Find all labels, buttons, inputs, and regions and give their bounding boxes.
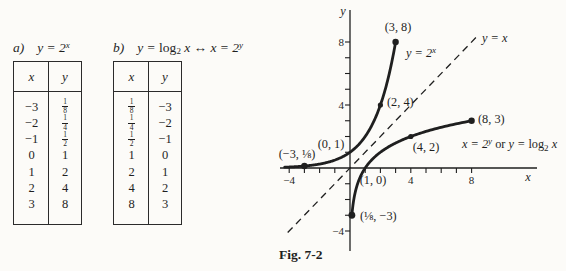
table-a: a) y = 2x xy −318−214−11201122438 <box>13 40 82 225</box>
table-cell: −3 <box>14 101 49 114</box>
point-label: (0, 1) <box>318 137 345 151</box>
curve-label: y = 2x <box>404 45 436 60</box>
fraction: 12 <box>128 131 135 149</box>
equation-part: log <box>159 40 176 55</box>
curve-label-part: x <box>549 137 558 151</box>
column-header: x <box>114 69 149 85</box>
point-label: (4, 2) <box>413 140 440 154</box>
table-cell: −2 <box>14 117 49 130</box>
point-dot <box>301 163 307 169</box>
curve-label-part: x = 2 <box>461 137 488 151</box>
table-cell: 3 <box>149 198 181 211</box>
column-header: y <box>49 69 81 85</box>
point-label: (1, 0) <box>360 173 387 187</box>
table-cell: −1 <box>149 133 181 146</box>
curve-label-part: or <box>492 137 508 151</box>
table-cell: −2 <box>149 117 181 130</box>
table-cell: 0 <box>14 149 49 162</box>
table-cell: 1 <box>49 149 81 162</box>
table-cell: 12 <box>49 131 81 149</box>
table-a-column-divider <box>48 62 49 224</box>
table-cell: 1 <box>149 166 181 179</box>
y-tick-label: −4 <box>332 225 344 237</box>
column-header: x <box>14 69 49 85</box>
identity-line <box>288 36 477 232</box>
equation-part: y = 2 <box>37 40 66 55</box>
table-b-column-divider <box>148 62 149 224</box>
table-cell: −3 <box>149 101 181 114</box>
point-dot <box>349 212 356 219</box>
table-cell: 2 <box>149 182 181 195</box>
table-b-heading: b) y = log2 x ↔ x = 2y <box>113 40 243 56</box>
table-cell: 1 <box>114 149 149 162</box>
y-axis-label: y <box>338 4 346 18</box>
table-b-label: b) <box>113 40 124 56</box>
fraction: 12 <box>62 131 69 149</box>
table-cell: 2 <box>14 182 49 195</box>
point-label: (−3, ⅛) <box>279 147 316 161</box>
equation-part: y = <box>137 40 159 55</box>
table-a-equation: y = 2x <box>37 40 70 56</box>
table-cell: −1 <box>14 133 49 146</box>
curve-label-part: y = 2 <box>404 46 432 60</box>
table-cell: 8 <box>49 198 81 211</box>
table-cell: 0 <box>149 149 181 162</box>
equation-part: x <box>66 40 70 50</box>
graph-figure: −448−448xy(3, 8)(2, 4)(0, 1)(−3, ⅛)(1, 0… <box>278 0 566 271</box>
table-cell: 12 <box>114 131 149 149</box>
table-a-grid: xy −318−214−11201122438 <box>13 61 82 225</box>
x-tick-label: 4 <box>408 174 414 186</box>
point-label: (⅛, −3) <box>360 209 397 223</box>
curve-label-part: x <box>431 45 436 55</box>
point-label: (8, 3) <box>478 112 505 126</box>
point-dot <box>408 134 413 139</box>
table-cell: 2 <box>49 166 81 179</box>
table-cell: 8 <box>114 198 149 211</box>
page: a) y = 2x xy −318−214−11201122438 b) y =… <box>0 0 566 271</box>
table-b-grid: xy 18−314−212−110214283 <box>113 61 182 225</box>
point-dot <box>378 102 383 107</box>
table-cell: 2 <box>114 166 149 179</box>
equation-part: y <box>239 40 243 50</box>
table-a-label: a) <box>13 40 24 56</box>
y-tick-label: 4 <box>339 99 345 111</box>
x-tick-label: −4 <box>283 174 295 186</box>
curve-label-part: log <box>528 137 544 151</box>
x-tick-label: 8 <box>469 174 475 186</box>
point-label: (3, 8) <box>385 20 412 34</box>
table-cell: 3 <box>14 198 49 211</box>
table-b-equation: y = log2 x ↔ x = 2y <box>137 40 243 56</box>
figure-caption: Fig. 7-2 <box>279 247 323 263</box>
point-dot <box>468 118 474 124</box>
table-b: b) y = log2 x ↔ x = 2y xy 18−314−212−110… <box>113 40 243 225</box>
y-tick-label: 8 <box>339 36 345 48</box>
table-cell: 4 <box>114 182 149 195</box>
x-axis-label: x <box>524 170 531 184</box>
point-label: (2, 4) <box>387 95 414 109</box>
table-cell: 1 <box>14 166 49 179</box>
table-cell: 4 <box>49 182 81 195</box>
point-dot <box>392 39 398 45</box>
column-header: y <box>149 69 181 85</box>
curve-label-part: y = x <box>480 31 508 45</box>
equation-part: x ↔ x = 2 <box>181 40 239 55</box>
curve-label: y = x <box>480 31 508 45</box>
table-a-heading: a) y = 2x <box>13 40 82 56</box>
curve-label: x = 2y or y = log2 x <box>461 136 558 153</box>
curve-label-part: y = <box>506 137 528 151</box>
